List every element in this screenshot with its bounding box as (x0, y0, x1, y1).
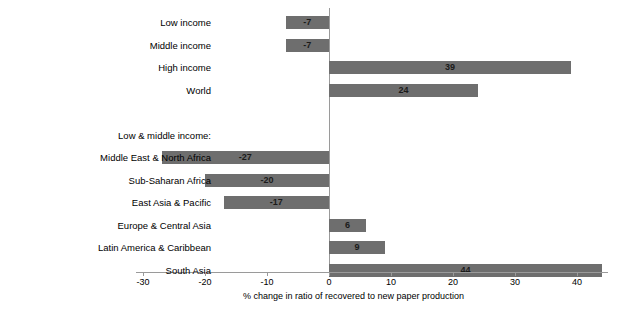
x-axis-tick-mark (391, 272, 392, 276)
category-label: Middle East & North Africa (100, 152, 211, 163)
category-group-header: Low & middle income: (118, 130, 211, 141)
category-label: East Asia & Pacific (132, 197, 211, 208)
x-axis-tick-label: 20 (433, 277, 473, 287)
x-axis-tick-label: -20 (185, 277, 225, 287)
category-label: High income (158, 62, 211, 73)
x-axis-tick-mark (453, 272, 454, 276)
x-axis-tick-label: 10 (371, 277, 411, 287)
bar-value-label: 44 (329, 264, 602, 277)
bar-value-label: -17 (224, 196, 329, 209)
bar-value-label: -20 (205, 174, 329, 187)
bar-value-label: -7 (286, 16, 329, 29)
bar-value-label: 6 (329, 219, 366, 232)
bar-chart: -7-73924-27-20-176944 % change in ratio … (0, 0, 633, 312)
x-axis-tick-label: -10 (247, 277, 287, 287)
x-axis-tick-label: 0 (309, 277, 349, 287)
x-axis-tick-mark (577, 272, 578, 276)
x-axis-title: % change in ratio of recovered to new pa… (0, 291, 633, 301)
x-axis-tick-mark (205, 272, 206, 276)
plot-area: -7-73924-27-20-176944 (0, 0, 633, 270)
category-label: Europe & Central Asia (118, 220, 211, 231)
category-label: World (186, 85, 211, 96)
bar-value-label: -7 (286, 39, 329, 52)
x-axis-title-text: % change in ratio of recovered to new pa… (243, 291, 464, 301)
x-axis-tick-mark (329, 272, 330, 276)
category-label: Latin America & Caribbean (98, 242, 211, 253)
zero-axis-line (329, 8, 330, 272)
bar-value-label: 39 (329, 61, 571, 74)
x-axis-tick-label: 30 (495, 277, 535, 287)
category-label: Middle income (150, 40, 211, 51)
x-axis-tick-mark (515, 272, 516, 276)
bar-value-label: 24 (329, 84, 478, 97)
x-axis-tick-mark (143, 272, 144, 276)
x-axis-tick-label: 40 (557, 277, 597, 287)
x-axis-tick-mark (267, 272, 268, 276)
x-axis-tick-label: -30 (123, 277, 163, 287)
category-label: Sub-Saharan Africa (129, 175, 211, 186)
bar-value-label: 9 (329, 241, 385, 254)
category-label: Low income (160, 17, 211, 28)
